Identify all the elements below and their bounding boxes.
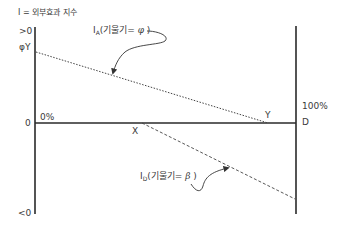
label-y: Y bbox=[265, 111, 271, 120]
ia-line bbox=[36, 52, 268, 123]
label-less-than-zero: <0 bbox=[18, 209, 31, 218]
label-greater-than-zero: >0 bbox=[19, 27, 32, 36]
label-x: X bbox=[132, 127, 138, 136]
ia-pointer-arrow bbox=[113, 31, 166, 73]
label-d: D bbox=[302, 118, 309, 127]
chart-title: I = 외부효과 지수 bbox=[18, 9, 77, 17]
label-phi-y: φY bbox=[19, 43, 30, 52]
id-line bbox=[142, 123, 295, 199]
label-zero: 0 bbox=[25, 119, 31, 128]
id-line-label: ID(기울기= β ) bbox=[140, 172, 197, 182]
ia-line-label: IA(기울기= φ ) bbox=[93, 26, 150, 36]
label-zero-percent: 0% bbox=[40, 113, 54, 122]
label-hundred-percent: 100% bbox=[302, 102, 328, 111]
